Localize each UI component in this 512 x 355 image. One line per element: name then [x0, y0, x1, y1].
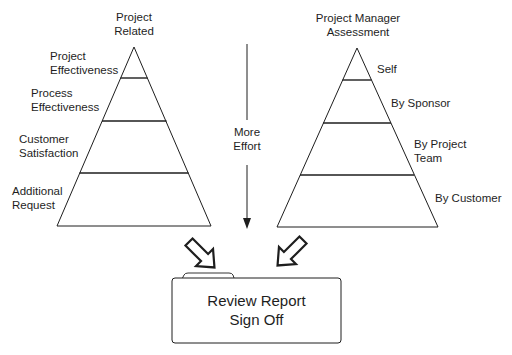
left-level-label-1: Project Effectiveness: [50, 49, 118, 77]
left-level-label-4: Additional Request: [12, 184, 63, 212]
right-pyramid-title: Project Manager Assessment: [306, 11, 410, 39]
review-report-label: Review Report Sign Off: [172, 291, 341, 329]
left-pyramid-title: Project Related: [104, 10, 164, 38]
right-level-label-1: Self: [377, 62, 397, 76]
effort-label: More Effort: [227, 125, 267, 153]
block-arrow-down-right-icon: [181, 234, 223, 276]
right-level-label-4: By Customer: [435, 191, 501, 205]
right-level-label-2: By Sponsor: [391, 96, 450, 110]
arrowhead-icon: [243, 218, 251, 229]
block-arrow-down-left-icon: [269, 232, 311, 274]
left-level-label-2: Process Effectiveness: [31, 86, 99, 114]
left-level-label-3: Customer Satisfaction: [19, 132, 78, 160]
right-level-label-3: By Project Team: [414, 137, 466, 165]
